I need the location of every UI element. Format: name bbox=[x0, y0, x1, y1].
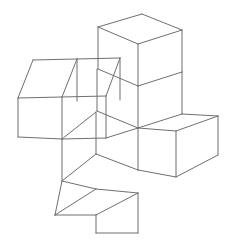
isometric-cubes-figure bbox=[0, 0, 233, 247]
cube-figure-container: Isometric stacked cubes line drawing Wir… bbox=[0, 0, 233, 247]
face-right-front bbox=[138, 128, 176, 177]
face-left-front bbox=[18, 97, 62, 139]
